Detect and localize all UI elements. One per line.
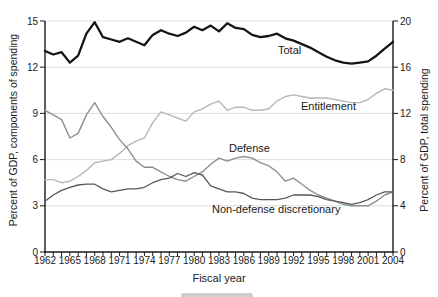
x-tick-label-2001: 2001 bbox=[357, 255, 380, 266]
spending-chart-figure: 0369121504812162019621965196819711974197… bbox=[0, 0, 438, 297]
x-tick-label-1977: 1977 bbox=[158, 255, 181, 266]
left-tick-label-3: 3 bbox=[32, 200, 38, 211]
x-tick-label-1980: 1980 bbox=[183, 255, 206, 266]
x-tick-label-1974: 1974 bbox=[133, 255, 156, 266]
x-tick-label-1989: 1989 bbox=[258, 255, 281, 266]
right-axis-title: Percent of GDP, total spending bbox=[418, 68, 430, 211]
right-tick-label-20: 20 bbox=[400, 16, 412, 27]
x-tick-label-1968: 1968 bbox=[84, 255, 107, 266]
x-tick-label-1983: 1983 bbox=[208, 255, 231, 266]
x-tick-label-1971: 1971 bbox=[108, 255, 131, 266]
x-tick-label-2004: 2004 bbox=[382, 255, 405, 266]
series-line-total bbox=[45, 22, 393, 64]
left-tick-label-9: 9 bbox=[32, 108, 38, 119]
right-tick-label-4: 4 bbox=[400, 200, 406, 211]
left-tick-label-12: 12 bbox=[27, 62, 39, 73]
series-label-nondefense: Non-defense discretionary bbox=[212, 203, 340, 215]
x-axis-title: Fiscal year bbox=[192, 272, 245, 284]
series-line-defense bbox=[45, 103, 393, 206]
x-tick-label-1965: 1965 bbox=[59, 255, 82, 266]
right-tick-label-12: 12 bbox=[400, 108, 412, 119]
x-tick-label-1986: 1986 bbox=[233, 255, 256, 266]
x-tick-label-1995: 1995 bbox=[307, 255, 330, 266]
series-line-nondefense bbox=[45, 173, 393, 205]
x-tick-label-1962: 1962 bbox=[34, 255, 57, 266]
series-label-defense: Defense bbox=[229, 142, 270, 154]
left-tick-label-15: 15 bbox=[27, 16, 39, 27]
series-label-entitlement: Entitlement bbox=[301, 100, 356, 112]
x-tick-label-1992: 1992 bbox=[282, 255, 305, 266]
x-tick-label-1998: 1998 bbox=[332, 255, 355, 266]
series-label-total: Total bbox=[278, 44, 301, 56]
right-tick-label-8: 8 bbox=[400, 154, 406, 165]
chart-plot-area: 0369121504812162019621965196819711974197… bbox=[0, 0, 438, 297]
left-tick-label-6: 6 bbox=[32, 154, 38, 165]
right-tick-label-16: 16 bbox=[400, 62, 412, 73]
left-axis-title: Percent of GDP, components of spending bbox=[7, 34, 19, 226]
watermark-smudge bbox=[181, 293, 253, 297]
